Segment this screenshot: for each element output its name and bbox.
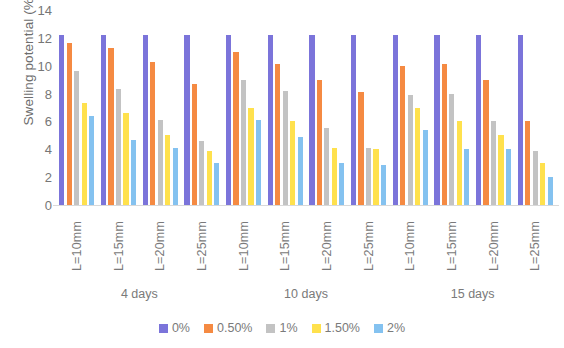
bar: [82, 103, 87, 205]
y-axis-tick-label: 14: [18, 4, 52, 17]
bar: [351, 35, 356, 205]
bar-cluster: [431, 10, 473, 205]
bar: [415, 108, 420, 206]
y-axis-tick-label: 12: [18, 31, 52, 44]
x-axis-label-cell: L=25mm: [514, 210, 556, 284]
bar: [476, 35, 481, 205]
x-axis-line: [53, 205, 559, 206]
bar: [400, 66, 405, 205]
x-axis-label-cell: L=10mm: [223, 210, 265, 284]
bar: [108, 48, 113, 205]
bar: [150, 62, 155, 205]
x-axis-label-cell: L=15mm: [98, 210, 140, 284]
x-axis-group-label: 15 days: [389, 287, 556, 307]
bar: [309, 35, 314, 205]
bar: [393, 35, 398, 205]
legend-item[interactable]: 0.50%: [204, 322, 252, 335]
bar: [358, 92, 363, 205]
y-axis-tick-label: 0: [18, 199, 52, 212]
bar: [67, 43, 72, 205]
plot-area: [56, 10, 556, 205]
bar: [525, 121, 530, 205]
x-axis-group-label: 10 days: [223, 287, 390, 307]
bar: [423, 130, 428, 205]
y-axis-tick-labels: 14121086420: [18, 0, 52, 210]
bar: [226, 35, 231, 205]
bar: [548, 177, 553, 205]
x-axis-category-label: L=15mm: [278, 221, 292, 271]
bar-cluster: [264, 10, 306, 205]
bar: [324, 128, 329, 205]
bar: [464, 149, 469, 205]
bar: [241, 80, 246, 205]
bar: [449, 94, 454, 205]
bar: [332, 148, 337, 205]
bar: [74, 71, 79, 205]
bar: [381, 165, 386, 205]
x-axis-category-label: L=15mm: [445, 221, 459, 271]
bar: [506, 149, 511, 205]
legend-swatch-icon: [266, 324, 275, 333]
x-axis-label-cell: L=25mm: [181, 210, 223, 284]
bar: [192, 84, 197, 205]
bar: [317, 80, 322, 205]
bar-cluster: [389, 10, 431, 205]
bar: [442, 64, 447, 205]
x-axis-label-cell: L=10mm: [56, 210, 98, 284]
x-axis-category-label: L=25mm: [528, 221, 542, 271]
chart-legend: 0%0.50%1%1.50%2%: [0, 322, 564, 335]
bar: [339, 163, 344, 205]
legend-label: 2%: [387, 322, 405, 335]
bar-cluster: [306, 10, 348, 205]
legend-swatch-icon: [159, 324, 168, 333]
legend-label: 1%: [279, 322, 297, 335]
x-axis-group-label: 4 days: [56, 287, 223, 307]
bar: [233, 52, 238, 205]
bar: [131, 140, 136, 205]
x-axis-label-cell: L=10mm: [389, 210, 431, 284]
x-axis-category-label: L=25mm: [195, 221, 209, 271]
bar: [59, 35, 64, 205]
bar: [283, 91, 288, 205]
x-axis-category-label: L=25mm: [362, 221, 376, 271]
bar: [498, 135, 503, 205]
x-axis-label-cell: L=20mm: [306, 210, 348, 284]
bar-cluster: [348, 10, 390, 205]
legend-item[interactable]: 1%: [266, 322, 297, 335]
bar: [214, 163, 219, 205]
bar: [165, 135, 170, 205]
x-axis-category-label: L=10mm: [237, 221, 251, 271]
bar: [101, 35, 106, 205]
legend-swatch-icon: [312, 324, 321, 333]
bar: [184, 35, 189, 205]
bar: [483, 80, 488, 205]
bar: [268, 35, 273, 205]
bar: [540, 163, 545, 205]
legend-item[interactable]: 2%: [374, 322, 405, 335]
x-axis-category-labels: L=10mmL=15mmL=20mmL=25mmL=10mmL=15mmL=20…: [56, 210, 556, 284]
bar-cluster: [56, 10, 98, 205]
bar: [408, 95, 413, 205]
bar: [248, 108, 253, 206]
bar: [116, 89, 121, 205]
legend-item[interactable]: 0%: [159, 322, 190, 335]
bar: [491, 121, 496, 205]
x-axis-label-cell: L=20mm: [473, 210, 515, 284]
y-axis-tick-label: 2: [18, 171, 52, 184]
bar: [173, 148, 178, 205]
legend-label: 0.50%: [217, 322, 252, 335]
bar: [158, 120, 163, 205]
bar: [298, 137, 303, 205]
bar-cluster: [473, 10, 515, 205]
legend-item[interactable]: 1.50%: [312, 322, 360, 335]
legend-swatch-icon: [204, 324, 213, 333]
bar: [275, 64, 280, 205]
bar-cluster: [139, 10, 181, 205]
bar: [518, 35, 523, 205]
legend-swatch-icon: [374, 324, 383, 333]
bar-chart: Swelling potential (%) 14121086420 L=10m…: [0, 0, 564, 348]
bar: [434, 35, 439, 205]
bar-cluster: [514, 10, 556, 205]
x-axis-group-labels: 4 days10 days15 days: [56, 287, 556, 307]
bar: [256, 120, 261, 205]
